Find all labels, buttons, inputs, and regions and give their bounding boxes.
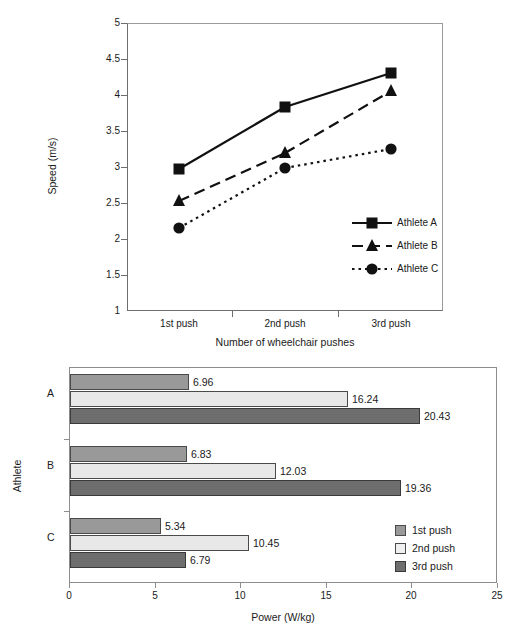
legend-item-1st-push[interactable]: 1st push — [395, 523, 495, 540]
bar-label-c-3rd-push: 6.79 — [190, 554, 210, 566]
line-ytick-3: 3 — [104, 161, 120, 172]
bar-xtick-5: 5 — [145, 590, 165, 601]
line-chart-y-axis-title: Speed (m/s) — [46, 106, 58, 226]
bar-xtick-mark — [155, 583, 156, 588]
bar-label-b-3rd-push: 19.36 — [405, 482, 431, 494]
legend-item-athlete-a[interactable]: Athlete A — [352, 214, 444, 232]
bar-label-a-3rd-push: 20.43 — [424, 410, 450, 422]
bar-chart-y-axis-title: Athlete — [11, 436, 23, 516]
figure-container: Speed (m/s) 5 4.5 4 3.5 3 2.5 2 1.5 1 — [0, 0, 519, 641]
bar-label-b-1st-push: 6.83 — [191, 448, 211, 460]
line-ytick-1: 1 — [104, 305, 120, 316]
bar-b-3rd-push[interactable] — [70, 480, 401, 496]
line-ytick-4: 4 — [104, 89, 120, 100]
bar-label-a-2nd-push: 16.24 — [352, 393, 378, 405]
legend-swatch-1st-push — [395, 525, 406, 536]
legend-swatch-athlete-b — [352, 237, 392, 255]
bar-xtick-15: 15 — [316, 590, 336, 601]
speed-line-chart: Speed (m/s) 5 4.5 4 3.5 3 2.5 2 1.5 1 — [0, 0, 519, 345]
line-ytick-4-5: 4.5 — [98, 53, 120, 64]
line-xtick-3rd-push: 3rd push — [362, 318, 420, 329]
line-xtick-mark — [232, 311, 233, 317]
legend-label-2nd-push: 2nd push — [412, 542, 455, 554]
line-ytick-1-5: 1.5 — [98, 269, 120, 280]
bar-category-a: A — [47, 387, 54, 399]
legend-label-3rd-push: 3rd push — [412, 560, 453, 572]
bar-xtick-mark — [240, 583, 241, 588]
legend-item-athlete-b[interactable]: Athlete B — [352, 237, 444, 255]
bar-xtick-mark — [497, 583, 498, 588]
bar-label-c-2nd-push: 10.45 — [253, 537, 279, 549]
power-bar-chart: Athlete A B C 6.96 16.24 20.43 6.83 12.0… — [0, 345, 519, 641]
bar-a-3rd-push[interactable] — [70, 408, 420, 424]
legend-label-athlete-a: Athlete A — [397, 217, 437, 228]
bar-label-a-1st-push: 6.96 — [193, 376, 213, 388]
bar-xtick-25: 25 — [487, 590, 507, 601]
bar-a-1st-push[interactable] — [70, 374, 189, 390]
line-ytick-2: 2 — [104, 233, 120, 244]
bar-a-2nd-push[interactable] — [70, 391, 348, 407]
bar-chart-legend: 1st push 2nd push 3rd push — [395, 523, 495, 575]
bar-label-b-2nd-push: 12.03 — [280, 465, 306, 477]
legend-label-athlete-b: Athlete B — [397, 240, 438, 251]
bar-chart-x-axis-title: Power (W/kg) — [69, 611, 497, 623]
legend-swatch-athlete-c — [352, 260, 392, 278]
legend-item-athlete-c[interactable]: Athlete C — [352, 260, 444, 278]
bar-b-1st-push[interactable] — [70, 446, 187, 462]
line-ytick-3-5: 3.5 — [98, 125, 120, 136]
line-xtick-1st-push: 1st push — [150, 318, 208, 329]
legend-swatch-2nd-push — [395, 543, 406, 554]
bar-label-c-1st-push: 5.34 — [165, 520, 185, 532]
line-chart-legend: Athlete A Athlete B Athlete C — [352, 214, 444, 280]
line-xtick-2nd-push: 2nd push — [256, 318, 314, 329]
bar-xtick-mark — [326, 583, 327, 588]
bar-c-3rd-push[interactable] — [70, 552, 186, 568]
line-ytick-2-5: 2.5 — [98, 197, 120, 208]
legend-item-3rd-push[interactable]: 3rd push — [395, 559, 495, 576]
legend-label-1st-push: 1st push — [412, 524, 452, 536]
bar-xtick-20: 20 — [401, 590, 421, 601]
bar-c-1st-push[interactable] — [70, 518, 161, 534]
legend-swatch-athlete-a — [352, 214, 392, 232]
legend-label-athlete-c: Athlete C — [397, 263, 438, 274]
line-xtick-mark — [338, 311, 339, 317]
bar-category-b: B — [47, 459, 54, 471]
bar-category-c: C — [47, 531, 55, 543]
bar-c-2nd-push[interactable] — [70, 535, 249, 551]
bar-xtick-10: 10 — [230, 590, 250, 601]
bar-xtick-0: 0 — [59, 590, 79, 601]
bar-xtick-mark — [69, 583, 70, 588]
line-ytick-5: 5 — [104, 17, 120, 28]
bar-xtick-mark — [411, 583, 412, 588]
bar-b-2nd-push[interactable] — [70, 463, 276, 479]
legend-item-2nd-push[interactable]: 2nd push — [395, 541, 495, 558]
legend-swatch-3rd-push — [395, 561, 406, 572]
